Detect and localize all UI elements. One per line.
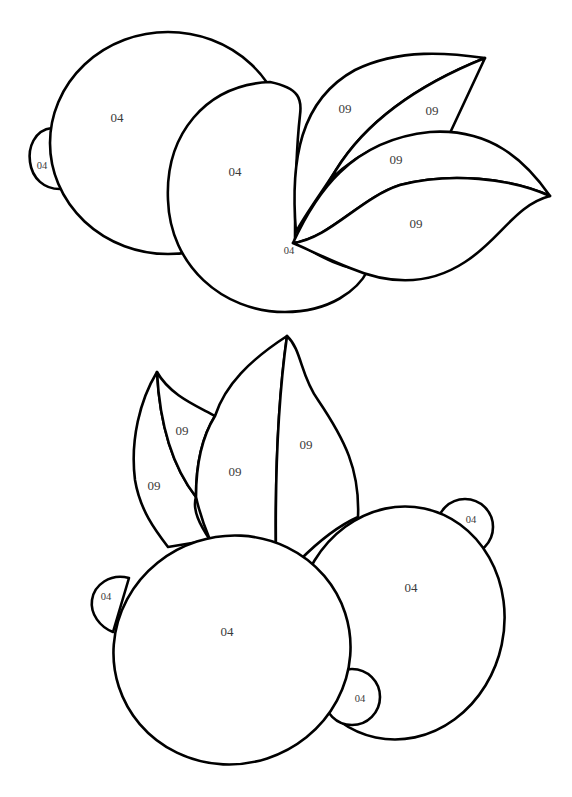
bottom-small-leaf-left-label: 09 bbox=[148, 478, 161, 493]
bottom-big-leaf-left-region[interactable] bbox=[196, 336, 287, 556]
bottom-big-leaf-left-label: 09 bbox=[229, 464, 242, 479]
top-upper-leaf-right-label: 09 bbox=[426, 103, 439, 118]
top-back-lemon-tip-label: 04 bbox=[37, 160, 48, 171]
top-lower-leaf-top-label: 09 bbox=[390, 152, 403, 167]
bottom-lemon-group: 09 09 09 09 04 04 04 04 04 bbox=[84, 336, 526, 795]
bottom-back-lemon-label: 04 bbox=[405, 580, 419, 595]
top-front-lemon-tip-label: 04 bbox=[284, 245, 295, 256]
bottom-back-lemon-tip-top-label: 04 bbox=[466, 514, 477, 525]
top-front-lemon-label: 04 bbox=[229, 164, 243, 179]
bottom-front-lemon-tip-left-label: 04 bbox=[101, 591, 112, 602]
coloring-page-canvas: 04 04 04 04 09 09 09 09 09 09 09 09 04 0… bbox=[0, 0, 572, 797]
top-lemon-group: 04 04 04 04 09 09 09 09 bbox=[30, 32, 550, 312]
top-upper-leaf-left-label: 09 bbox=[339, 101, 352, 116]
bottom-big-leaf-right-label: 09 bbox=[300, 437, 313, 452]
bottom-small-leaf-right-label: 09 bbox=[176, 423, 189, 438]
bottom-front-lemon-label: 04 bbox=[221, 624, 235, 639]
bottom-back-lemon-tip-bottom-label: 04 bbox=[355, 693, 366, 704]
top-lower-leaf-bottom-label: 09 bbox=[410, 216, 423, 231]
top-back-lemon-label: 04 bbox=[111, 110, 125, 125]
